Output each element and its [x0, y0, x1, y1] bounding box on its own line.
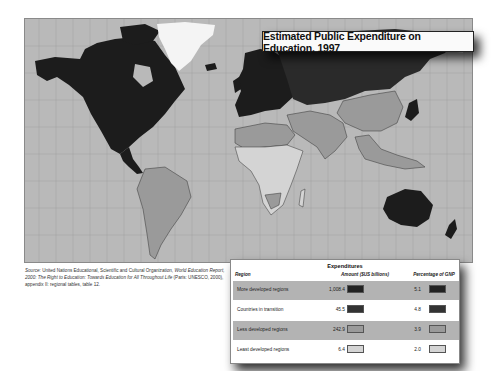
legend-swatch — [347, 325, 364, 333]
world-map — [24, 18, 473, 263]
region-iceland — [205, 63, 217, 71]
table-group-header: Expenditures — [231, 263, 459, 269]
row-amount: 242.9 — [313, 327, 345, 332]
expenditure-table: Expenditures Region Amount ($US billions… — [230, 259, 460, 364]
table-header-row: Region Amount ($US billions) Percentage … — [231, 272, 459, 279]
legend-swatch — [347, 285, 364, 293]
row-percentage: 3.9 — [407, 327, 421, 332]
region-southeast-asia — [355, 135, 425, 169]
legend-swatch — [347, 345, 364, 353]
row-region: Less developed regions — [237, 327, 288, 332]
legend-swatch — [429, 345, 446, 353]
region-north-america — [35, 37, 185, 154]
source-label: Source: — [25, 268, 41, 273]
region-australia — [383, 189, 433, 227]
region-south-america — [137, 167, 191, 259]
region-japan — [405, 99, 419, 121]
legend-swatch — [347, 305, 364, 313]
row-amount: 6.4 — [313, 347, 345, 352]
header-region: Region — [235, 272, 251, 277]
world-map-graphic — [25, 19, 473, 263]
table-row: Countries in transition 45.5 4.8 — [233, 301, 459, 320]
row-region: More developed regions — [237, 287, 288, 292]
source-note: Source: United Nations Educational, Scie… — [25, 267, 230, 288]
table-row: More developed regions 1,008.4 5.1 — [233, 281, 459, 300]
row-region: Least developed regions — [237, 347, 289, 352]
row-percentage: 4.8 — [407, 307, 421, 312]
row-percentage: 2.0 — [407, 347, 421, 352]
table-row: Less developed regions 242.9 3.9 — [233, 321, 459, 340]
row-amount: 1,008.4 — [313, 287, 345, 292]
header-amount: Amount ($US billions) — [329, 272, 401, 277]
source-text-1: United Nations Educational, Scientific a… — [42, 268, 173, 273]
table-row: Least developed regions 6.4 2.0 — [233, 341, 459, 360]
row-percentage: 5.1 — [407, 287, 421, 292]
header-percentage: Percentage of GNP — [409, 272, 459, 277]
map-title: Estimated Public Expenditure on Educatio… — [262, 31, 474, 52]
row-region: Countries in transition — [237, 307, 283, 312]
region-madagascar — [299, 189, 305, 207]
legend-swatch — [429, 305, 446, 313]
row-amount: 45.5 — [313, 307, 345, 312]
legend-swatch — [429, 285, 446, 293]
legend-swatch — [429, 325, 446, 333]
